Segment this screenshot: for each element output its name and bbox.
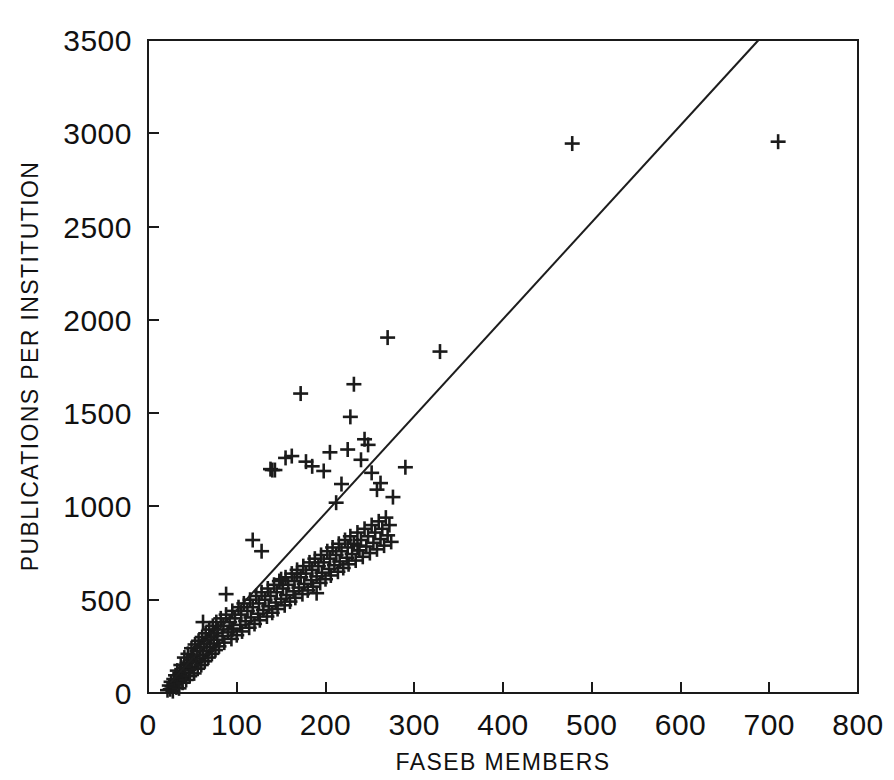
y-tick-label-0: 0 [115, 677, 132, 710]
data-point [771, 134, 786, 149]
data-point [371, 514, 386, 529]
data-point [354, 452, 369, 467]
figure-container: 0100200300400500600700800 05001000150020… [0, 0, 894, 780]
y-tick-label-1000: 1000 [63, 490, 132, 523]
regression-line [170, 40, 758, 683]
data-point [219, 587, 234, 602]
y-tick-labels: 0500100015002000250030003500 [63, 24, 132, 710]
data-point [245, 533, 260, 548]
data-point [293, 386, 308, 401]
y-axis-ticks [148, 40, 159, 693]
data-point [432, 344, 447, 359]
x-tick-label-200: 200 [300, 708, 352, 741]
x-tick-label-400: 400 [477, 708, 529, 741]
data-point [322, 445, 337, 460]
x-tick-label-800: 800 [832, 708, 884, 741]
x-tick-labels: 0100200300400500600700800 [139, 708, 883, 741]
x-tick-label-500: 500 [566, 708, 618, 741]
data-point [385, 490, 400, 505]
data-point [565, 136, 580, 151]
data-point [343, 409, 358, 424]
data-point [340, 442, 355, 457]
y-axis-title: PUBLICATIONS PER INSTITUTION [17, 161, 43, 572]
data-point [346, 377, 361, 392]
x-tick-label-700: 700 [743, 708, 795, 741]
data-point [364, 518, 379, 533]
data-point [380, 330, 395, 345]
x-axis-title: FASEB MEMBERS [395, 749, 610, 775]
y-tick-label-3000: 3000 [63, 117, 132, 150]
data-point [254, 544, 269, 559]
data-points-layer [160, 134, 786, 698]
data-point [350, 525, 365, 540]
data-point [382, 518, 397, 533]
x-axis-ticks [148, 682, 858, 693]
data-point [378, 510, 393, 525]
y-tick-label-500: 500 [80, 584, 132, 617]
x-tick-label-0: 0 [139, 708, 156, 741]
y-tick-label-1500: 1500 [63, 397, 132, 430]
fit-line-segment [170, 40, 758, 683]
x-tick-label-600: 600 [655, 708, 707, 741]
y-tick-label-2500: 2500 [63, 211, 132, 244]
x-tick-label-100: 100 [211, 708, 263, 741]
data-point [357, 521, 372, 536]
data-point [398, 460, 413, 475]
x-tick-label-300: 300 [388, 708, 440, 741]
y-tick-label-2000: 2000 [63, 304, 132, 337]
scatter-plot: 0100200300400500600700800 05001000150020… [0, 0, 894, 780]
y-tick-label-3500: 3500 [63, 24, 132, 57]
